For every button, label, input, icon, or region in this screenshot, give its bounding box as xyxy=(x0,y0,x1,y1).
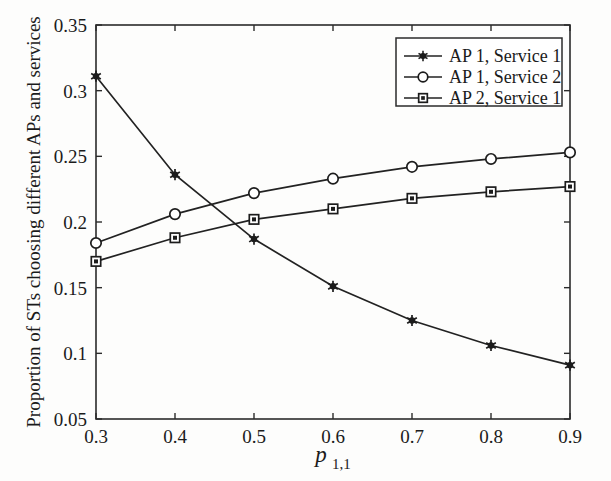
marker-circle xyxy=(407,162,417,172)
y-axis-title: Proportion of STs choosing different APs… xyxy=(23,16,44,428)
y-tick-label: 0.2 xyxy=(63,212,87,233)
marker-square-core xyxy=(331,207,335,211)
x-axis-title-symbol: p xyxy=(313,442,327,467)
marker-square-core xyxy=(410,196,414,200)
figure-container: 0.30.40.50.60.70.80.9 0.050.10.150.20.25… xyxy=(0,0,611,481)
x-tick-label: 0.5 xyxy=(242,426,266,447)
x-axis-title-subscript: 1,1 xyxy=(332,456,351,472)
x-tick-label: 0.7 xyxy=(400,426,424,447)
marker-square-core xyxy=(94,259,98,263)
marker-circle xyxy=(565,147,575,157)
y-tick-label: 0.25 xyxy=(54,146,87,167)
x-tick-label: 0.4 xyxy=(163,426,187,447)
x-tick-label: 0.8 xyxy=(479,426,503,447)
marker-circle xyxy=(418,72,428,82)
marker-circle xyxy=(91,238,101,248)
legend-label: AP 1, Service 2 xyxy=(449,67,561,87)
marker-square-core xyxy=(421,96,425,100)
x-tick-label: 0.3 xyxy=(84,426,108,447)
y-tick-label: 0.35 xyxy=(54,15,87,36)
x-tick-label: 0.9 xyxy=(558,426,582,447)
y-tick-label: 0.1 xyxy=(63,343,87,364)
legend[interactable]: AP 1, Service 1AP 1, Service 2AP 2, Serv… xyxy=(396,38,562,108)
legend-label: AP 1, Service 1 xyxy=(449,46,561,66)
y-axis-title-label: Proportion of STs choosing different APs… xyxy=(23,16,44,428)
y-tick-label: 0.3 xyxy=(63,81,87,102)
marker-square-core xyxy=(252,217,256,221)
legend-label: AP 2, Service 1 xyxy=(449,88,561,108)
marker-circle xyxy=(328,173,338,183)
line-chart: 0.30.40.50.60.70.80.9 0.050.10.150.20.25… xyxy=(0,0,611,481)
y-tick-label: 0.15 xyxy=(54,278,87,299)
marker-square-core xyxy=(489,190,493,194)
marker-circle xyxy=(486,154,496,164)
marker-circle xyxy=(249,188,259,198)
legend-entries: AP 1, Service 1AP 1, Service 2AP 2, Serv… xyxy=(404,46,561,108)
y-tick-label: 0.05 xyxy=(54,409,87,430)
marker-square-core xyxy=(568,185,572,189)
marker-circle xyxy=(170,209,180,219)
marker-square-core xyxy=(173,236,177,240)
